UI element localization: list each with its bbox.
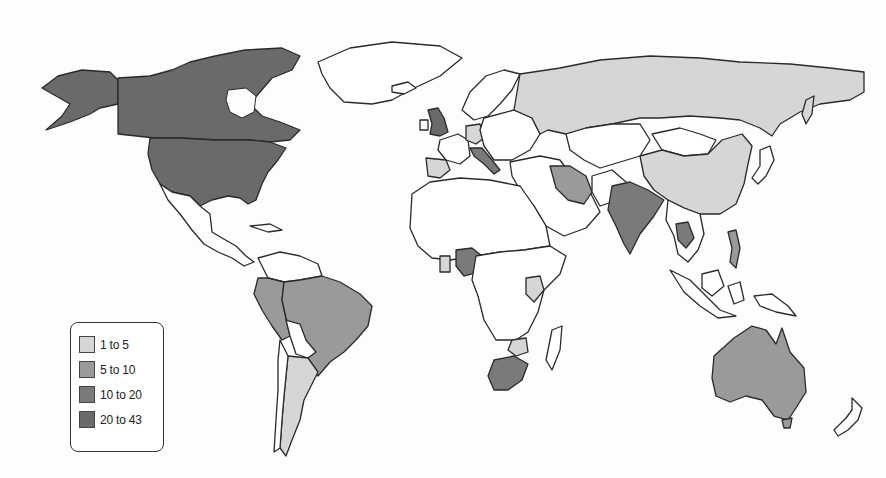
region-madagascar — [546, 326, 562, 370]
region-russia — [514, 56, 864, 136]
legend-swatch — [79, 336, 95, 353]
legend-label: 10 to 20 — [100, 388, 142, 402]
legend-item-1-to-5: 1 to 5 — [79, 332, 163, 357]
region-alaska — [42, 70, 118, 130]
region-philippines — [728, 230, 740, 268]
legend-item-20-to-43: 20 to 43 — [79, 407, 163, 432]
legend-swatch — [79, 386, 95, 403]
legend: 1 to 5 5 to 10 10 to 20 20 to 43 — [70, 322, 164, 452]
region-united-kingdom — [428, 108, 448, 136]
region-greenland — [318, 42, 462, 104]
legend-swatch — [79, 361, 95, 378]
region-new-zealand — [834, 398, 862, 436]
region-ghana — [440, 256, 450, 272]
region-ireland — [420, 120, 428, 130]
world-map: 1 to 5 5 to 10 10 to 20 20 to 43 — [0, 0, 886, 478]
region-cuba — [250, 224, 282, 232]
legend-label: 5 to 10 — [100, 363, 135, 377]
region-japan — [752, 146, 774, 184]
region-indonesia — [670, 270, 744, 318]
legend-item-10-to-20: 10 to 20 — [79, 382, 163, 407]
legend-swatch — [79, 411, 95, 428]
legend-label: 20 to 43 — [100, 413, 142, 427]
region-south-africa — [488, 356, 528, 390]
legend-item-5-to-10: 5 to 10 — [79, 357, 163, 382]
region-canada — [118, 48, 300, 142]
region-india — [608, 182, 664, 254]
region-tasmania — [782, 418, 792, 428]
region-central-africa — [472, 246, 566, 340]
region-zimbabwe — [508, 338, 528, 356]
region-spain — [426, 158, 450, 178]
region-central-asia — [566, 124, 650, 168]
legend-label: 1 to 5 — [100, 338, 129, 352]
region-papua-new-guinea — [754, 294, 796, 316]
region-australia — [712, 326, 806, 420]
